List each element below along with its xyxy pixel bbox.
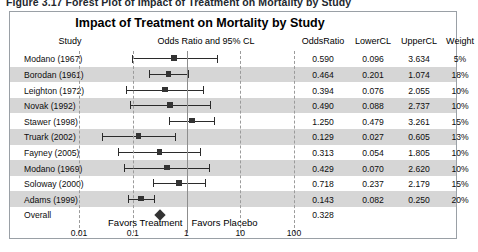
- ci-cap-upper: [217, 55, 218, 63]
- forest-row: Truark (2002)0.1290.0270.60513%: [10, 129, 456, 145]
- column-header-plot: Odds Ratio and 95% CL: [116, 36, 296, 46]
- ci-cap-upper: [154, 195, 155, 203]
- ci-cap-lower: [149, 70, 150, 78]
- ci-cap-lower: [118, 148, 119, 156]
- column-header-uppercl: UpperCL: [396, 36, 442, 46]
- point-estimate-marker: [164, 165, 170, 171]
- x-tick-label-10: 10: [235, 228, 245, 238]
- point-estimate-marker: [176, 180, 182, 186]
- forest-row: Novak (1992)0.4900.0882.73710%: [10, 98, 456, 114]
- forest-row: Modano (1967)0.5900.0963.6345%: [10, 51, 456, 67]
- forest-row: Stawer (1998)1.2500.4793.26115%: [10, 113, 456, 129]
- forest-row: Soloway (2000)0.7180.2372.17915%: [10, 176, 456, 192]
- ci-graphic: [10, 113, 456, 129]
- ci-cap-upper: [175, 133, 176, 141]
- forest-row: Fayney (2005)0.3130.0541.80510%: [10, 145, 456, 161]
- ci-graphic: [10, 191, 456, 207]
- ci-cap-upper: [188, 70, 189, 78]
- point-estimate-marker: [136, 133, 142, 139]
- ci-graphic: [10, 145, 456, 161]
- ci-cap-lower: [130, 101, 131, 109]
- ci-graphic: [10, 98, 456, 114]
- x-tick-label-0.01: 0.01: [71, 228, 88, 238]
- chart-title: Impact of Treatment on Mortality by Stud…: [10, 16, 390, 30]
- ci-cap-upper: [209, 164, 210, 172]
- point-estimate-marker: [167, 102, 173, 108]
- ci-graphic: [10, 82, 456, 98]
- column-header-lowercl: LowerCL: [350, 36, 396, 46]
- ci-cap-lower: [124, 164, 125, 172]
- ci-graphic: [10, 67, 456, 83]
- x-tick-label-1: 1: [184, 228, 189, 238]
- ci-cap-upper: [200, 148, 201, 156]
- x-tick-label-0.1: 0.1: [127, 228, 139, 238]
- ci-cap-upper: [203, 86, 204, 94]
- column-header-study: Study: [24, 36, 116, 46]
- ci-graphic: [10, 160, 456, 176]
- ci-graphic: [10, 176, 456, 192]
- ci-graphic: [10, 51, 456, 67]
- favors-placebo-label: Favors Placebo: [192, 217, 258, 228]
- point-estimate-marker: [166, 71, 172, 77]
- ci-cap-upper: [210, 101, 211, 109]
- forest-row: Adams (1999)0.1430.0820.25020%: [10, 191, 456, 207]
- point-estimate-marker: [162, 87, 168, 93]
- ci-cap-lower: [102, 133, 103, 141]
- favors-treatment-label: Favors Treatment: [108, 217, 182, 228]
- x-axis: Favors Treatment Favors Placebo 0.010.11…: [10, 217, 456, 239]
- ci-graphic: [10, 129, 456, 145]
- table-header-row: Study Odds Ratio and 95% CL OddsRatio Lo…: [10, 36, 456, 50]
- ci-cap-lower: [126, 86, 127, 94]
- forest-rows: Modano (1967)0.5900.0963.6345%Borodan (1…: [10, 51, 456, 223]
- forest-row: Modano (1969)0.4290.0702.62010%: [10, 160, 456, 176]
- point-estimate-marker: [189, 118, 195, 124]
- ci-cap-upper: [214, 117, 215, 125]
- column-header-weight: Weight: [442, 36, 478, 46]
- ci-cap-upper: [205, 179, 206, 187]
- ci-cap-lower: [153, 179, 154, 187]
- forest-plot-chart: Impact of Treatment on Mortality by Stud…: [9, 11, 457, 239]
- ci-cap-lower: [128, 195, 129, 203]
- x-tick-label-100: 100: [287, 228, 301, 238]
- ci-cap-lower: [132, 55, 133, 63]
- forest-row: Leighton (1972)0.3940.0762.05510%: [10, 82, 456, 98]
- column-header-oddsratio: OddsRatio: [296, 36, 350, 46]
- point-estimate-marker: [157, 149, 163, 155]
- point-estimate-marker: [138, 196, 144, 202]
- forest-row: Borodan (1961)0.4640.2011.07418%: [10, 67, 456, 83]
- point-estimate-marker: [171, 55, 177, 61]
- ci-cap-lower: [169, 117, 170, 125]
- figure-caption: Figure 3.17 Forest Plot of Impact of Tre…: [6, 0, 466, 8]
